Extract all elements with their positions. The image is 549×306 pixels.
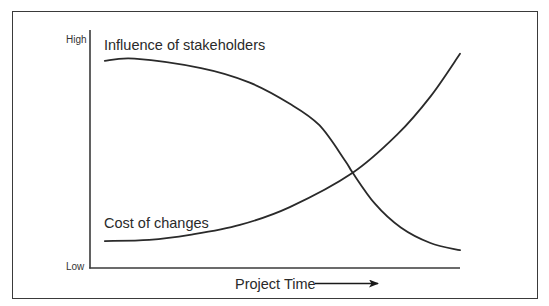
x-axis-label: Project Time [235, 276, 316, 292]
y-tick-high: High [66, 34, 87, 45]
cost-of-changes-curve [105, 54, 460, 241]
chart-canvas: High Low Influence of stakeholders Cost … [0, 0, 549, 306]
series-label-influence: Influence of stakeholders [104, 37, 265, 53]
series-label-cost: Cost of changes [104, 215, 209, 231]
y-tick-low: Low [66, 261, 85, 272]
